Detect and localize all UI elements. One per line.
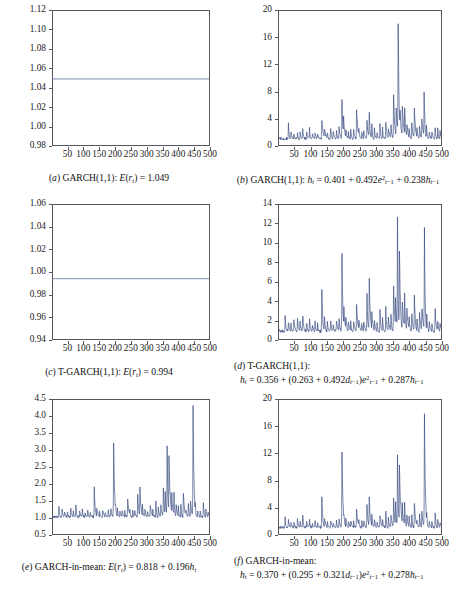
chart-panel-b: 04812162050100150200250300350400450500(b…: [0, 0, 456, 592]
x-axis-tick-mark: [115, 147, 116, 150]
y-axis-tick-label-a: 1.04: [4, 83, 46, 92]
y-axis-tick-label-b: 12: [230, 60, 272, 69]
x-axis-tick-mark: [131, 341, 132, 344]
x-axis-tick-mark: [294, 341, 295, 344]
x-axis-tick-mark: [393, 147, 394, 150]
y-axis-tick-mark: [275, 64, 278, 65]
y-axis-tick-label-c: 1.06: [4, 199, 46, 208]
y-axis-tick-mark: [49, 484, 52, 485]
x-axis-tick-label-c: 150: [86, 344, 112, 353]
x-axis-tick-label-e: 450: [181, 539, 207, 548]
y-axis-tick-mark: [275, 481, 278, 482]
x-axis-tick-mark: [343, 536, 344, 539]
y-axis-tick-mark: [49, 467, 52, 468]
x-axis-tick-mark: [426, 341, 427, 344]
x-axis-tick-label-a: 150: [86, 150, 112, 159]
y-axis-tick-mark: [49, 535, 52, 536]
x-axis-tick-mark: [294, 536, 295, 539]
caption-line-1: (d) T-GARCH(1,1):: [234, 360, 456, 372]
plot-area-d: [278, 204, 442, 340]
x-axis-tick-label-a: 500: [197, 150, 223, 159]
chart-panel-f: 04812162050100150200250300350400450500(f…: [0, 0, 456, 592]
x-axis-tick-label-c: 250: [118, 344, 144, 353]
y-axis-tick-label-f: 4: [230, 503, 272, 512]
x-axis-tick-mark: [163, 536, 164, 539]
x-axis-tick-label-c: 100: [70, 344, 96, 353]
x-axis-tick-mark: [178, 147, 179, 150]
x-axis-tick-mark: [360, 341, 361, 344]
x-axis-tick-label-c: 500: [197, 344, 223, 353]
y-axis-tick-label-f: 20: [230, 394, 272, 403]
panel-caption-c: (c) T-GARCH(1,1): E(rt) = 0.994: [2, 366, 216, 380]
x-axis-tick-mark: [294, 147, 295, 150]
y-axis-tick-mark: [275, 282, 278, 283]
y-axis-tick-label-d: 0: [230, 335, 272, 344]
y-axis-tick-mark: [275, 508, 278, 509]
x-axis-tick-mark: [442, 341, 443, 344]
y-axis-tick-label-e: 2.5: [4, 462, 46, 471]
y-axis-tick-mark: [49, 107, 52, 108]
y-axis-tick-label-d: 6: [230, 277, 272, 286]
y-axis-tick-mark: [49, 450, 52, 451]
y-axis-tick-mark: [275, 119, 278, 120]
y-axis-tick-mark: [275, 535, 278, 536]
x-axis-tick-mark: [210, 341, 211, 344]
y-axis-tick-label-f: 16: [230, 422, 272, 431]
x-axis-tick-mark: [210, 147, 211, 150]
x-axis-tick-label-f: 400: [396, 539, 422, 548]
y-axis-tick-label-d: 12: [230, 219, 272, 228]
x-axis-tick-label-a: 100: [70, 150, 96, 159]
plot-area-c: [52, 204, 210, 340]
y-axis-tick-label-c: 1.02: [4, 245, 46, 254]
y-axis-tick-mark: [49, 227, 52, 228]
y-axis-tick-label-c: 1.00: [4, 267, 46, 276]
x-axis-tick-label-c: 50: [55, 344, 81, 353]
series-line-b: [279, 24, 441, 140]
y-axis-tick-mark: [275, 262, 278, 263]
panel-caption-e: (e) GARCH-in-mean: E(rt) = 0.818 + 0.196…: [2, 561, 216, 575]
x-axis-tick-mark: [409, 341, 410, 344]
x-axis-tick-label-d: 50: [281, 344, 307, 353]
y-axis-tick-label-b: 4: [230, 114, 272, 123]
y-axis-tick-mark: [49, 340, 52, 341]
x-axis-tick-mark: [360, 536, 361, 539]
y-axis-tick-label-c: 0.96: [4, 313, 46, 322]
x-axis-tick-label-e: 500: [197, 539, 223, 548]
x-axis-tick-mark: [210, 536, 211, 539]
y-axis-tick-label-f: 12: [230, 449, 272, 458]
x-axis-tick-mark: [409, 147, 410, 150]
x-axis-tick-label-c: 400: [165, 344, 191, 353]
y-axis-tick-mark: [49, 416, 52, 417]
y-axis-tick-label-a: 1.00: [4, 122, 46, 131]
y-axis-tick-mark: [275, 243, 278, 244]
y-axis-tick-mark: [275, 204, 278, 205]
x-axis-tick-label-a: 350: [150, 150, 176, 159]
panel-caption-b: (b) GARCH(1,1): ht = 0.401 + 0.492e2t−1 …: [228, 172, 448, 188]
x-axis-tick-label-d: 150: [314, 344, 340, 353]
x-axis-tick-label-d: 100: [298, 344, 324, 353]
y-axis-tick-label-a: 1.02: [4, 103, 46, 112]
caption-line-1: (b) GARCH(1,1): ht = 0.401 + 0.492e2t−1 …: [228, 172, 448, 188]
caption-line-1: (f) GARCH-in-mean:: [234, 555, 456, 567]
x-axis-tick-mark: [68, 147, 69, 150]
panel-caption-d: (d) T-GARCH(1,1):ht = 0.356 + (0.263 + 0…: [234, 360, 456, 388]
panel-caption-a: (a) GARCH(1,1): E(rt) = 1.049: [2, 172, 216, 186]
y-axis-tick-label-e: 4.0: [4, 411, 46, 420]
series-line-e: [53, 405, 209, 518]
y-axis-tick-mark: [49, 204, 52, 205]
plot-area-b: [278, 10, 442, 146]
x-axis-tick-mark: [426, 147, 427, 150]
x-axis-tick-label-e: 150: [86, 539, 112, 548]
x-axis-tick-mark: [115, 536, 116, 539]
x-axis-tick-mark: [311, 147, 312, 150]
x-axis-tick-mark: [163, 341, 164, 344]
y-axis-tick-label-d: 4: [230, 297, 272, 306]
x-axis-tick-mark: [99, 536, 100, 539]
x-axis-tick-label-a: 400: [165, 150, 191, 159]
x-axis-tick-mark: [68, 536, 69, 539]
series-line-d: [279, 217, 441, 333]
chart-panel-a: 0.981.001.021.041.061.081.101.1250100150…: [0, 0, 456, 592]
y-axis-tick-label-e: 3.5: [4, 428, 46, 437]
x-axis-tick-label-b: 500: [429, 150, 455, 159]
x-axis-tick-mark: [426, 536, 427, 539]
